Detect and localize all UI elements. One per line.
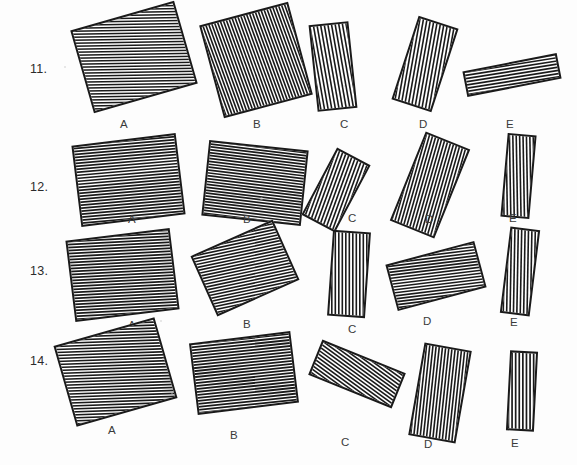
hatched-rectangle-11B <box>199 2 313 119</box>
shape-label-14B: B <box>230 429 238 441</box>
hatch-lines <box>301 148 370 233</box>
scan-speck <box>343 85 345 87</box>
scan-speck <box>171 392 173 394</box>
hatch-lines <box>408 343 472 444</box>
hatched-rectangle-14E <box>506 350 538 431</box>
row-number-11: 11. <box>30 62 47 76</box>
row-number-12: 12. <box>30 180 48 194</box>
shape-label-14C: C <box>341 436 349 448</box>
hatch-lines <box>500 226 540 316</box>
hatch-lines <box>190 220 299 317</box>
hatched-rectangle-14A <box>53 317 177 427</box>
test-sheet-page: 11.ABCDE12.ABCDE13.ABCDE14.ABCDE <box>0 0 577 465</box>
hatch-lines <box>53 317 177 427</box>
shape-label-12D: D <box>425 213 433 225</box>
shape-label-13D: D <box>423 315 431 327</box>
shape-label-13C: C <box>348 323 356 335</box>
hatched-rectangle-11C <box>309 21 358 112</box>
hatch-lines <box>189 331 299 415</box>
row-number-13: 13. <box>30 264 48 278</box>
hatched-rectangle-11E <box>462 53 561 97</box>
hatched-rectangle-13E <box>500 226 540 316</box>
hatched-rectangle-12C <box>301 148 370 233</box>
hatch-lines <box>462 53 561 97</box>
hatched-rectangle-13A <box>65 228 179 322</box>
hatched-rectangle-11A <box>70 1 198 113</box>
shape-label-12B: B <box>243 213 251 225</box>
hatched-rectangle-13D <box>385 241 486 311</box>
hatched-rectangle-14B <box>189 331 299 415</box>
scan-speck <box>423 319 425 321</box>
hatched-rectangle-12B <box>201 140 308 226</box>
shape-label-13B: B <box>243 318 251 330</box>
hatch-lines <box>391 16 458 113</box>
hatch-lines <box>201 140 308 226</box>
hatched-rectangle-14D <box>408 343 472 444</box>
shape-label-12A: A <box>128 213 136 225</box>
shape-label-11D: D <box>419 118 427 130</box>
hatched-rectangle-11D <box>391 16 458 113</box>
hatch-lines <box>65 228 179 322</box>
scan-speck <box>260 197 263 200</box>
shape-label-11A: A <box>120 118 128 130</box>
shape-label-11B: B <box>253 118 261 130</box>
shape-label-13E: E <box>510 316 518 328</box>
hatched-rectangle-13B <box>190 220 299 317</box>
scan-speck <box>64 66 66 68</box>
hatched-rectangle-14C <box>308 340 406 409</box>
hatch-lines <box>506 350 538 431</box>
hatch-lines <box>308 340 406 409</box>
hatch-lines <box>385 241 486 311</box>
hatch-lines <box>500 133 536 219</box>
shape-label-12C: C <box>348 212 356 224</box>
hatched-rectangle-13C <box>327 230 371 318</box>
hatched-rectangle-12E <box>500 133 536 219</box>
hatch-lines <box>70 1 198 113</box>
scan-speck <box>162 358 164 360</box>
hatch-lines <box>199 2 313 119</box>
shape-label-12E: E <box>509 212 517 224</box>
hatch-lines <box>327 230 371 318</box>
shape-label-14D: D <box>424 438 432 450</box>
shape-label-11C: C <box>340 118 348 130</box>
shape-label-14A: A <box>108 424 116 436</box>
scan-speck <box>160 320 162 322</box>
hatch-lines <box>309 21 358 112</box>
row-number-14: 14. <box>30 354 48 368</box>
shape-label-14E: E <box>511 437 519 449</box>
shape-label-11E: E <box>506 118 514 130</box>
